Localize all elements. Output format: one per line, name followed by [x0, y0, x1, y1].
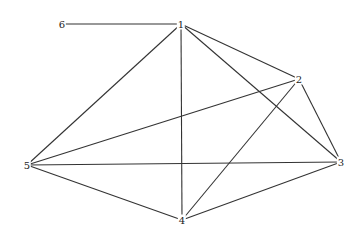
node-5: 5 — [23, 160, 31, 171]
node-3: 3 — [337, 157, 345, 168]
edge-1-5 — [27, 24, 181, 165]
edge-1-3 — [181, 24, 341, 162]
graph-diagram — [0, 0, 363, 240]
node-1: 1 — [177, 19, 185, 30]
node-4: 4 — [178, 215, 186, 226]
edge-1-4 — [181, 24, 182, 220]
edge-1-2 — [181, 24, 299, 79]
edge-2-3 — [299, 79, 341, 162]
edge-3-5 — [27, 162, 341, 165]
node-2: 2 — [295, 74, 303, 85]
edge-2-5 — [27, 79, 299, 165]
node-6: 6 — [58, 19, 66, 30]
edge-4-5 — [27, 165, 182, 220]
